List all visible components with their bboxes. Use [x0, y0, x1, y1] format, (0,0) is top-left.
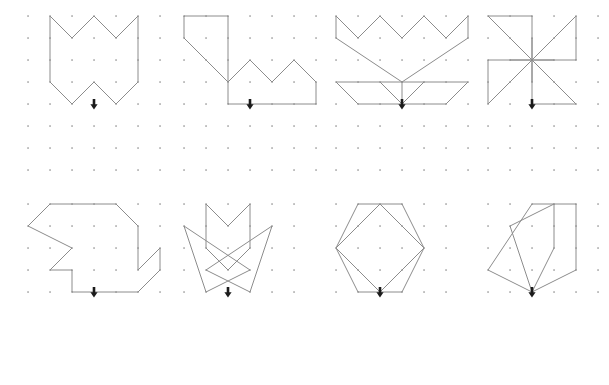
grid-dot	[159, 225, 161, 227]
grid-dot	[487, 37, 489, 39]
grid-dot	[249, 147, 251, 149]
down-arrow-stem	[531, 99, 534, 105]
grid-dot	[159, 59, 161, 61]
grid-dot	[315, 147, 317, 149]
grid-dot	[183, 81, 185, 83]
grid-dot	[271, 291, 273, 293]
grid-dot	[27, 169, 29, 171]
grid-dot	[357, 125, 359, 127]
grid-dot	[115, 269, 117, 271]
grid-dot	[293, 247, 295, 249]
down-arrow-icon	[90, 99, 97, 109]
grid-dot	[159, 169, 161, 171]
grid-dot	[293, 37, 295, 39]
chevron-outline	[206, 204, 250, 270]
pinwheel-canvas	[484, 12, 603, 175]
grid-dot	[597, 203, 599, 205]
grid-dot	[137, 203, 139, 205]
grid-dot	[227, 247, 229, 249]
down-arrow-head	[246, 104, 253, 109]
grid-dot	[115, 225, 117, 227]
grid-dot	[487, 247, 489, 249]
grid-dot	[315, 125, 317, 127]
wing-fold-right	[402, 82, 424, 104]
grid-dot	[467, 125, 469, 127]
stepped-zigzag-bird-canvas	[180, 12, 321, 175]
grid-dot	[49, 247, 51, 249]
grid-dot	[71, 125, 73, 127]
grid-dot	[293, 203, 295, 205]
grid-dot	[379, 59, 381, 61]
grid-dot	[509, 291, 511, 293]
grid-dot	[445, 291, 447, 293]
grid-dot	[183, 125, 185, 127]
grid-dot	[115, 125, 117, 127]
grid-dot	[159, 203, 161, 205]
down-arrow-head	[90, 104, 97, 109]
grid-dot	[271, 59, 273, 61]
down-arrow-icon	[224, 287, 231, 297]
panel-angular-bird	[24, 200, 165, 297]
grid-dot	[249, 15, 251, 16]
grid-dot	[27, 59, 29, 61]
grid-dot	[401, 59, 403, 61]
panel-chevron-with-crossed-wings	[180, 200, 299, 297]
grid-dot	[293, 81, 295, 83]
down-arrow-head	[376, 292, 383, 297]
down-arrow-head	[90, 292, 97, 297]
grid-dot	[137, 147, 139, 149]
down-arrow-stem	[401, 99, 404, 105]
grid-dot	[205, 125, 207, 127]
grid-dot	[183, 291, 185, 293]
grid-dot	[445, 169, 447, 171]
grid-dot	[423, 147, 425, 149]
grid-dot	[205, 169, 207, 171]
grid-dot	[487, 203, 489, 205]
grid-dot	[49, 125, 51, 127]
pinwheel-blade-upper-left	[488, 16, 532, 60]
grid-dot	[227, 147, 229, 149]
grid-dot	[249, 81, 251, 83]
chevron-with-crossed-wings-canvas	[180, 200, 299, 297]
grid-dot	[27, 81, 29, 83]
grid-dot	[335, 125, 337, 127]
grid-dot	[49, 147, 51, 149]
grid-dot	[531, 125, 533, 127]
grid-dot	[271, 269, 273, 271]
grid-dot	[159, 125, 161, 127]
grid-dot	[531, 269, 533, 271]
grid-dot	[575, 169, 577, 171]
grid-dot	[71, 81, 73, 83]
grid-dot	[27, 291, 29, 293]
grid-dot	[509, 103, 511, 105]
grid-dot	[575, 147, 577, 149]
grid-dot	[335, 291, 337, 293]
grid-dot	[487, 291, 489, 293]
grid-dot	[423, 59, 425, 61]
grid-dot	[445, 59, 447, 61]
grid-dot	[27, 125, 29, 127]
grid-dot	[379, 125, 381, 127]
dot-grid	[27, 203, 161, 292]
grid-dot	[401, 169, 403, 171]
grid-dot	[597, 247, 599, 249]
grid-dot	[271, 37, 273, 39]
grid-dot	[183, 169, 185, 171]
grid-dot	[531, 147, 533, 149]
grid-dot	[27, 247, 29, 249]
grid-dot	[49, 169, 51, 171]
grid-dot	[315, 169, 317, 171]
grid-dot	[445, 247, 447, 249]
panel-overlapping-pentagons	[484, 200, 603, 297]
grid-dot	[271, 125, 273, 127]
grid-dot	[93, 37, 95, 39]
grid-dot	[293, 125, 295, 127]
grid-dot	[423, 203, 425, 205]
grid-dot	[445, 203, 447, 205]
grid-dot	[487, 147, 489, 149]
grid-dot	[93, 169, 95, 171]
grid-dot	[445, 225, 447, 227]
grid-dot	[379, 269, 381, 271]
grid-dot	[335, 59, 337, 61]
grid-dot	[597, 269, 599, 271]
